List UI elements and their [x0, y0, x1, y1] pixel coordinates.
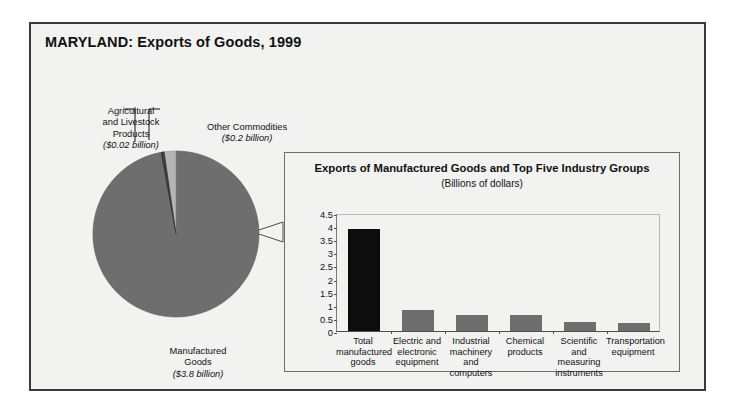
x-axis-category-label-5: Scientific andmeasuringinstruments: [552, 336, 606, 378]
x-axis-category-label-line: products: [498, 347, 552, 358]
y-axis-tick-mark: [334, 320, 337, 321]
x-axis-category-label-line: Transportation: [606, 336, 660, 347]
x-axis-tick-mark: [499, 331, 500, 334]
bar-1: [348, 229, 380, 331]
x-axis-category-label-line: Industrial: [444, 336, 498, 347]
pie-label-other-line1: Other Commodities: [183, 122, 311, 133]
pie-label-manufactured-goods: Manufactured Goods ($3.8 billion): [123, 346, 273, 380]
pie-label-agricultural-livestock: Agricultural and Livestock Products ($0.…: [79, 106, 183, 152]
pie-label-agricultural-line3: Products: [79, 129, 183, 140]
y-axis-tick-label: 0: [328, 328, 333, 338]
figure-panel: MARYLAND: Exports of Goods, 1999 Agricul…: [29, 22, 706, 391]
pie-label-manufactured-line1: Manufactured: [123, 346, 273, 357]
y-axis-tick-label: 4: [328, 223, 333, 233]
y-axis-tick-label: 4.5: [320, 210, 333, 220]
figure-root: MARYLAND: Exports of Goods, 1999 Agricul…: [0, 0, 734, 417]
pie-label-other-amount: ($0.2 billion): [183, 133, 311, 144]
y-axis-tick-mark: [334, 333, 337, 334]
x-axis-category-label-line: Chemical: [498, 336, 552, 347]
x-axis-category-label-line: Scientific and: [552, 336, 606, 357]
page-title: MARYLAND: Exports of Goods, 1999: [45, 34, 301, 50]
y-axis-tick-label: 3.5: [320, 236, 333, 246]
y-axis-tick-mark: [334, 281, 337, 282]
x-axis-category-label-line: instruments: [552, 368, 606, 379]
x-axis-category-label-4: Chemicalproducts: [498, 336, 552, 357]
x-axis-category-label-2: Electric andelectronicequipment: [390, 336, 444, 368]
x-axis-category-label-6: Transportationequipment: [606, 336, 660, 357]
x-axis-category-label-line: equipment: [606, 347, 660, 358]
x-axis-category-label-1: Totalmanufacturedgoods: [336, 336, 390, 368]
x-axis-category-label-line: goods: [336, 357, 390, 368]
pie-chart: [81, 139, 271, 329]
y-axis-tick-mark: [334, 228, 337, 229]
x-axis-tick-mark: [607, 331, 608, 334]
pie-label-agricultural-line1: Agricultural: [79, 106, 183, 117]
bar-3: [456, 315, 488, 331]
bar-6: [618, 323, 650, 331]
bar-chart-plot-area: 00.511.522.533.544.5: [336, 214, 660, 332]
y-axis-tick-label: 1.5: [320, 289, 333, 299]
y-axis-tick-mark: [334, 215, 337, 216]
x-axis-category-label-3: Industrialmachinery andcomputers: [444, 336, 498, 378]
x-axis-category-label-line: measuring: [552, 357, 606, 368]
inset-chart-title: Exports of Manufactured Goods and Top Fi…: [285, 162, 679, 174]
x-axis-tick-mark: [553, 331, 554, 334]
pie-label-other-commodities: Other Commodities ($0.2 billion): [183, 122, 311, 145]
x-axis-tick-mark: [391, 331, 392, 334]
bar-2: [402, 310, 434, 332]
bar-5: [564, 322, 596, 331]
y-axis-tick-mark: [334, 254, 337, 255]
y-axis-tick-label: 3: [328, 249, 333, 259]
pie-label-agricultural-amount: ($0.02 billion): [79, 140, 183, 151]
pie-label-manufactured-amount: ($3.8 billion): [123, 369, 273, 380]
x-axis-category-label-line: machinery and: [444, 347, 498, 368]
inset-chart-subtitle: (Billions of dollars): [285, 178, 679, 189]
y-axis-tick-mark: [334, 307, 337, 308]
pie-label-manufactured-line2: Goods: [123, 357, 273, 368]
y-axis-tick-label: 2.5: [320, 262, 333, 272]
x-axis-category-label-line: Total: [336, 336, 390, 347]
pie-label-agricultural-line2: and Livestock: [79, 117, 183, 128]
y-axis-tick-mark: [334, 294, 337, 295]
y-axis-tick-label: 1: [328, 302, 333, 312]
x-axis-tick-mark: [445, 331, 446, 334]
inset-bar-chart-panel: Exports of Manufactured Goods and Top Fi…: [284, 152, 680, 372]
y-axis-tick-mark: [334, 241, 337, 242]
x-axis-category-label-line: electronic: [390, 347, 444, 358]
bar-4: [510, 315, 542, 331]
x-axis-category-label-line: equipment: [390, 357, 444, 368]
x-axis-category-label-line: computers: [444, 368, 498, 379]
pie-chart-svg: [81, 139, 271, 329]
x-axis-category-label-line: manufactured: [336, 347, 390, 358]
x-axis-category-label-line: Electric and: [390, 336, 444, 347]
y-axis-tick-mark: [334, 267, 337, 268]
y-axis-tick-label: 0.5: [320, 315, 333, 325]
y-axis-tick-label: 2: [328, 276, 333, 286]
